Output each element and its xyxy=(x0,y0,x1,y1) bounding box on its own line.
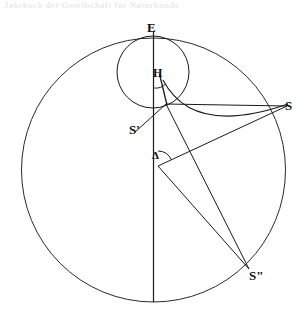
point-label-E: E xyxy=(147,20,156,36)
H-angle-arc xyxy=(155,84,166,88)
line-center-to-S-double-prime xyxy=(158,166,249,269)
point-label-S-prime: S' xyxy=(129,122,140,138)
angle-label-delta: Δ xyxy=(152,149,159,161)
line-node-to-S-double-prime xyxy=(166,104,249,269)
delta-angle-arc xyxy=(158,151,172,160)
curve-H-to-S xyxy=(163,80,288,116)
point-label-S: S xyxy=(285,98,292,114)
point-label-S-double-prime: S" xyxy=(249,268,263,284)
point-label-H: H xyxy=(153,66,162,81)
line-center-to-S xyxy=(158,106,287,166)
figure-root: Jahrbuch der Gesellschaft für Naturkunde… xyxy=(0,0,305,329)
